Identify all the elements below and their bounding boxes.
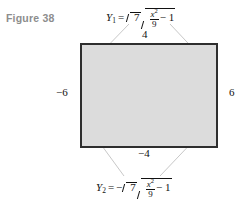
formula-y1-radicand: x29− 1	[148, 8, 176, 30]
formula-y2-sqrt-coef-icon: 7	[122, 182, 137, 193]
x-axis-max-label: 6	[229, 86, 235, 98]
formula-y1-subscript: 1	[112, 16, 116, 25]
formula-y1-fraction: x29	[150, 8, 159, 30]
figure-container: Figure 38	[0, 0, 247, 202]
formula-y2-radicand: x29− 1	[144, 178, 172, 200]
formula-y2-num-exponent: 2	[151, 177, 154, 184]
calculator-screen	[80, 43, 218, 148]
formula-y2: Y2=−7x29− 1	[96, 178, 172, 200]
formula-y1-equals: =	[118, 11, 124, 23]
formula-y1-coef-radicand: 7	[133, 12, 141, 23]
formula-y2-coef-radicand: 7	[129, 182, 137, 193]
formula-y2-subscript: 2	[102, 186, 106, 195]
formula-y2-equals: =	[108, 181, 114, 193]
formula-y1-num-exponent: 2	[155, 7, 158, 14]
formula-y1-minus: −	[160, 11, 166, 23]
x-axis-min-label: −6	[56, 86, 68, 98]
y-axis-min-label: −4	[138, 147, 150, 159]
formula-y1-one: 1	[169, 11, 175, 23]
formula-y2-fraction: x29	[146, 178, 155, 200]
formula-y1-sqrt-main-icon: x29− 1	[141, 8, 176, 30]
formula-y2-one: 1	[165, 181, 171, 193]
formula-y2-fraction-denominator: 9	[146, 190, 155, 199]
formula-y1-fraction-denominator: 9	[150, 20, 159, 29]
formula-y1: Y1=7x29− 1	[106, 8, 175, 30]
formula-y1-sqrt-coef-icon: 7	[126, 12, 141, 23]
formula-y2-minus: −	[156, 181, 162, 193]
formula-y2-sqrt-main-icon: x29− 1	[137, 178, 172, 200]
